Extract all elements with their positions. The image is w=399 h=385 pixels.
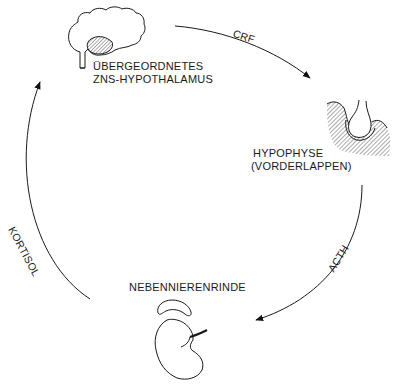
pituitary-label-line2: (VORDERLAPPEN) (251, 161, 352, 172)
brain-icon (69, 7, 145, 68)
pituitary-icon (327, 100, 390, 156)
adrenal-kidney-icon (155, 300, 207, 379)
brain-label-line2: ZNS-HYPOTHALAMUS (93, 74, 213, 85)
pituitary-label-line1: HYPOPHYSE (253, 148, 323, 159)
brain-label-line1: ÜBERGEORDNETES (93, 61, 203, 72)
adrenal-label: NEBENNIERENRINDE (129, 282, 246, 293)
